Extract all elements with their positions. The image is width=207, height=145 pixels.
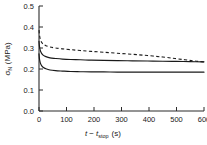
y-tick-label: 0.4 (24, 23, 34, 32)
x-tick-label: 100 (60, 115, 73, 124)
x-tick-labels: 0100200300400500600 (37, 115, 207, 124)
y-tick-label: 0.3 (24, 44, 34, 53)
x-tick-label: 600 (198, 115, 207, 124)
y-axis-label: σN(MPa) (3, 42, 13, 76)
x-tick-label: 500 (170, 115, 183, 124)
curve-upper-dashed (39, 30, 204, 62)
y-tick-label: 0.2 (24, 65, 34, 74)
chart-plot-area: 0100200300400500600 0.00.10.20.30.40.5 t… (0, 0, 207, 145)
x-tick-label: 400 (143, 115, 156, 124)
data-curves (39, 30, 204, 72)
y-tick-labels: 0.00.10.20.30.40.5 (24, 2, 34, 116)
x-tick-label: 300 (115, 115, 128, 124)
y-tick-label: 0.0 (24, 107, 34, 116)
y-tick-label: 0.1 (24, 86, 34, 95)
svg-text:t−tstop(s): t−tstop(s) (85, 129, 121, 139)
figure-container: 0100200300400500600 0.00.10.20.30.40.5 t… (0, 0, 207, 145)
curve-lower-solid (39, 54, 204, 72)
x-axis-label: t−tstop(s) (85, 129, 121, 139)
y-tick-label: 0.5 (24, 2, 34, 11)
x-tick-label: 0 (37, 115, 41, 124)
x-tick-label: 200 (88, 115, 101, 124)
svg-text:σN(MPa): σN(MPa) (3, 42, 13, 76)
